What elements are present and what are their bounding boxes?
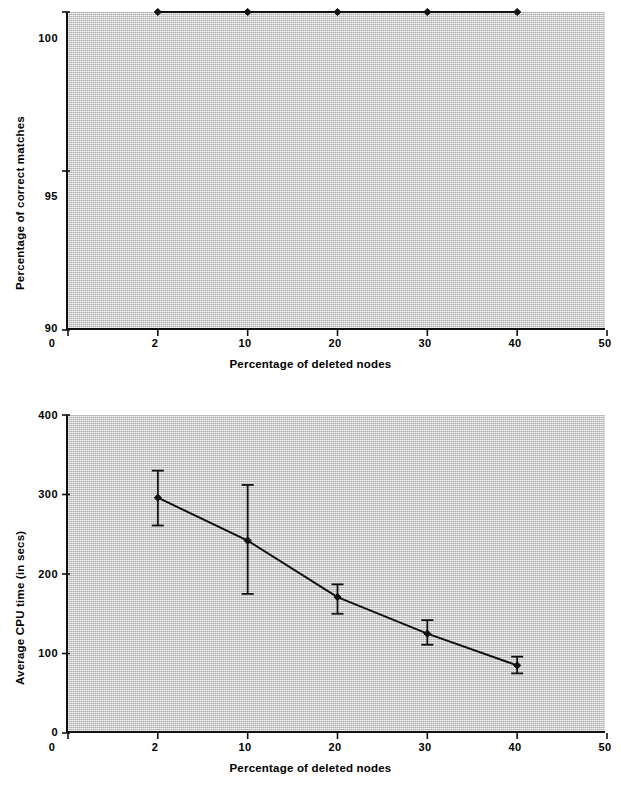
y-tick-label: 400: [16, 409, 58, 421]
y-axis-title: Average CPU time (in secs): [14, 531, 26, 685]
plot-area-accuracy: [66, 12, 605, 330]
x-tick-label: 10: [215, 337, 275, 349]
x-tick-label: 0: [22, 741, 82, 753]
x-tick-label: 2: [125, 337, 185, 349]
x-tick-label: 20: [305, 337, 365, 349]
x-tick-label: 2: [125, 741, 185, 753]
chart-panel-cpu-time: 400 300 200 100 0 0 2 10 20 30 40 50 Per…: [0, 380, 621, 794]
figure-container: 100 95 90 0 2 10 20 30 40 50 Percentage …: [0, 0, 621, 794]
x-axis-title: Percentage of deleted nodes: [0, 762, 621, 774]
x-axis-title: Percentage of deleted nodes: [0, 358, 621, 370]
chart-panel-accuracy: 100 95 90 0 2 10 20 30 40 50 Percentage …: [0, 0, 621, 380]
x-tick-label: 30: [395, 337, 455, 349]
x-tick-label: 40: [485, 741, 545, 753]
series-cpu-time: [68, 415, 607, 733]
x-tick-label: 50: [575, 337, 621, 349]
plot-area-cpu-time: [66, 415, 605, 733]
series-accuracy: [68, 12, 607, 330]
x-tick-label: 10: [215, 741, 275, 753]
y-tick-label: 300: [16, 488, 58, 500]
x-tick-label: 0: [22, 337, 82, 349]
y-axis-title: Percentage of correct matches: [14, 116, 26, 290]
y-tick-label: 90: [16, 322, 58, 334]
x-tick-label: 50: [575, 741, 621, 753]
x-tick-label: 20: [305, 741, 365, 753]
x-tick-label: 30: [395, 741, 455, 753]
y-tick-label: 100: [16, 32, 58, 44]
y-tick-label: 0: [16, 726, 58, 738]
x-tick-label: 40: [485, 337, 545, 349]
